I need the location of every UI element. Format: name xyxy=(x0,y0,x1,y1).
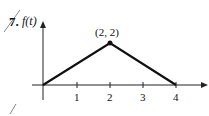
x-axis-arrow-icon xyxy=(201,82,208,88)
x-tick-label-3: 3 xyxy=(140,91,146,103)
pen-mark xyxy=(10,104,16,114)
peak-point xyxy=(108,41,113,46)
x-tick-label-4: 4 xyxy=(173,91,179,103)
x-tick-label-2: 2 xyxy=(107,91,113,103)
peak-annotation: (2, 2) xyxy=(95,26,119,38)
y-axis-arrow-icon xyxy=(40,21,46,28)
x-tick-label-1: 1 xyxy=(74,91,80,103)
problem-number: 7. xyxy=(9,14,19,30)
function-line xyxy=(43,43,176,85)
y-axis-label: f(t) xyxy=(22,14,37,29)
